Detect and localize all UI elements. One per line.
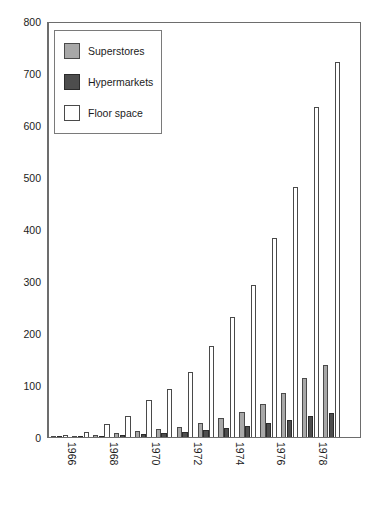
- y-tick-label: 100: [23, 381, 41, 392]
- legend-swatch-icon: [64, 105, 80, 121]
- x-tick-label: 1966: [67, 442, 78, 465]
- bar-floor-space: [104, 424, 109, 437]
- bar-superstores: [156, 429, 161, 437]
- bar-floor-space: [293, 187, 298, 437]
- y-tick-label: 500: [23, 173, 41, 184]
- bar-superstores: [51, 436, 56, 438]
- bar-superstores: [323, 365, 328, 437]
- bar-superstores: [239, 412, 244, 437]
- bar-floor-space: [272, 238, 277, 437]
- x-tick-label: 1976: [276, 442, 287, 465]
- legend-label: Hypermarkets: [88, 77, 153, 88]
- x-tick-label: 1972: [192, 442, 203, 465]
- bar-hypermarkets: [161, 433, 166, 437]
- bar-hypermarkets: [57, 436, 62, 438]
- bar-superstores: [218, 418, 223, 437]
- legend-item[interactable]: Superstores: [64, 40, 153, 62]
- x-axis: 1966196819701972197419761978: [47, 440, 361, 510]
- bar-superstores: [93, 435, 98, 437]
- bar-superstores: [302, 378, 307, 437]
- bar-hypermarkets: [203, 430, 208, 437]
- bar-hypermarkets: [120, 435, 125, 437]
- bar-floor-space: [251, 285, 256, 437]
- bar-floor-space: [209, 346, 214, 437]
- bar-superstores: [114, 433, 119, 437]
- bar-floor-space: [230, 317, 235, 437]
- x-tick-label: 1974: [234, 442, 245, 465]
- bar-superstores: [260, 404, 265, 437]
- bar-hypermarkets: [141, 434, 146, 437]
- bar-hypermarkets: [308, 416, 313, 437]
- bar-superstores: [72, 436, 77, 438]
- bar-hypermarkets: [224, 428, 229, 437]
- legend-swatch-icon: [64, 74, 80, 90]
- y-tick-label: 0: [35, 433, 41, 444]
- chart-legend: SuperstoresHypermarketsFloor space: [54, 30, 162, 134]
- x-tick-label: 1968: [109, 442, 120, 465]
- bar-floor-space: [188, 372, 193, 437]
- bar-floor-space: [125, 416, 130, 437]
- bar-floor-space: [314, 107, 319, 437]
- bar-superstores: [281, 393, 286, 437]
- y-tick-label: 600: [23, 121, 41, 132]
- bar-superstores: [177, 427, 182, 437]
- bar-floor-space: [335, 62, 340, 437]
- bar-hypermarkets: [99, 436, 104, 438]
- bar-floor-space: [84, 432, 89, 437]
- bar-hypermarkets: [266, 423, 271, 437]
- bar-superstores: [198, 423, 203, 437]
- bar-hypermarkets: [182, 432, 187, 437]
- x-tick-label: 1978: [318, 442, 329, 465]
- bar-floor-space: [167, 389, 172, 437]
- legend-label: Superstores: [88, 46, 145, 57]
- legend-swatch-icon: [64, 43, 80, 59]
- bar-floor-space: [146, 400, 151, 437]
- bar-hypermarkets: [329, 413, 334, 437]
- bar-superstores: [135, 431, 140, 437]
- bar-hypermarkets: [78, 436, 83, 438]
- bar-hypermarkets: [245, 426, 250, 437]
- y-tick-label: 200: [23, 329, 41, 340]
- x-tick-label: 1970: [150, 442, 161, 465]
- bar-chart: 0100200300400500600700800 19661968197019…: [0, 0, 368, 515]
- y-tick-label: 800: [23, 17, 41, 28]
- y-tick-label: 700: [23, 69, 41, 80]
- bar-floor-space: [63, 435, 68, 437]
- bar-hypermarkets: [287, 420, 292, 437]
- legend-label: Floor space: [88, 108, 143, 119]
- y-tick-label: 400: [23, 225, 41, 236]
- legend-item[interactable]: Floor space: [64, 102, 153, 124]
- legend-item[interactable]: Hypermarkets: [64, 71, 153, 93]
- y-tick-label: 300: [23, 277, 41, 288]
- y-axis: 0100200300400500600700800: [0, 22, 47, 438]
